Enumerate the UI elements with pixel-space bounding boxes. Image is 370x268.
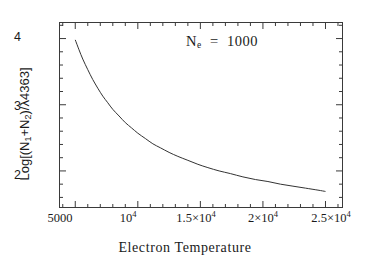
x-tick-label-4: 2.5×104 [311,212,350,225]
annotation-electron-density: Ne = 1000 [186,33,258,50]
y-axis-title-wrapper: Log[(N1+N2)/λ4363] [15,24,33,224]
y-axis-title: Log[(N1+N2)/λ4363] [17,67,32,180]
x-tick-exponent: 4 [346,209,350,219]
annotation-value: = 1000 [202,33,258,49]
x-tick-exponent: 4 [211,209,215,219]
x-tick-base: 5000 [48,211,73,225]
x-tick-base: 10 [120,211,133,225]
y-axis-title-head: Log[(N [17,141,32,180]
y-axis-title-mid: +N [17,119,32,136]
x-tick-label-2: 1.5×104 [176,212,215,225]
annotation-symbol: N [186,33,197,49]
x-tick-base: 2×10 [248,211,274,225]
y-axis-title-sub2: 2 [23,114,33,119]
figure-canvas: 5000 104 1.5×104 2×104 2.5×104 2 3 4 Ne … [0,0,370,268]
annotation-subscript: e [197,40,202,50]
x-tick-base: 1.5×10 [176,211,211,225]
y-axis-title-tail: )/λ4363] [17,67,32,114]
x-tick-label-0: 5000 [48,212,73,225]
x-tick-label-1: 104 [120,212,137,225]
x-axis-title: Electron Temperature [0,240,370,256]
data-curve-series-0 [75,40,325,192]
y-axis-title-sub1: 1 [23,136,33,141]
x-tick-base: 2.5×10 [311,211,346,225]
x-tick-exponent: 4 [132,209,136,219]
x-tick-label-3: 2×104 [248,212,278,225]
x-tick-exponent: 4 [274,209,278,219]
